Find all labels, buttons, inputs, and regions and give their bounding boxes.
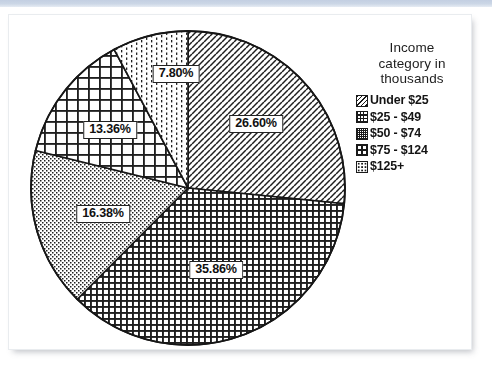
coarse-grid-icon bbox=[356, 144, 368, 156]
legend-item: $50 - $74 bbox=[356, 126, 482, 143]
legend-title: Income category in thousands bbox=[356, 40, 468, 87]
legend-item: $25 - $49 bbox=[356, 109, 482, 126]
page-top-banner-strip bbox=[0, 0, 492, 7]
diagonal-hatch-icon bbox=[356, 95, 368, 107]
pie-slice-value-label: 13.36% bbox=[83, 121, 137, 139]
legend-title-line-2: category in bbox=[356, 56, 468, 72]
legend-item-label: $50 - $74 bbox=[370, 127, 421, 140]
scanned-page: 26.60%35.86%16.38%13.36%7.80% Income cat… bbox=[0, 0, 492, 373]
legend-item-label: $75 - $124 bbox=[370, 144, 428, 157]
chart-legend: Income category in thousands Under $25$2… bbox=[356, 40, 482, 175]
pie-slice-value-label: 7.80% bbox=[153, 65, 200, 83]
legend-item-label: $25 - $49 bbox=[370, 111, 421, 124]
sparse-dots-icon bbox=[356, 161, 368, 173]
dense-grid-icon bbox=[356, 111, 368, 123]
legend-item-label: Under $25 bbox=[370, 94, 429, 107]
legend-item: $125+ bbox=[356, 159, 482, 176]
legend-item: Under $25 bbox=[356, 93, 482, 110]
stipple-icon bbox=[356, 128, 368, 140]
pie-slice-value-label: 26.60% bbox=[229, 115, 283, 133]
legend-items: Under $25$25 - $49$50 - $74$75 - $124$12… bbox=[356, 93, 482, 176]
legend-title-line-1: Income bbox=[356, 40, 468, 56]
legend-item: $75 - $124 bbox=[356, 142, 482, 159]
legend-item-label: $125+ bbox=[370, 160, 404, 173]
legend-title-line-3: thousands bbox=[356, 71, 468, 87]
pie-slice-value-label: 16.38% bbox=[76, 205, 130, 223]
pie-slice-value-label: 35.86% bbox=[189, 261, 243, 279]
